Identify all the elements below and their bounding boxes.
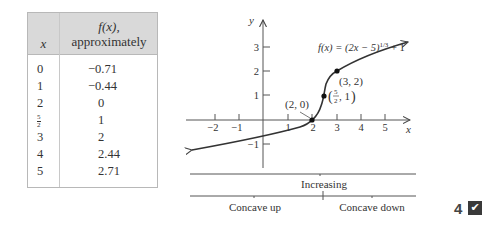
svg-text:1: 1 [254,90,259,101]
svg-text:3: 3 [334,122,339,133]
increasing-label: Increasing [301,178,347,190]
checkbox-icon[interactable]: ✔ [468,201,482,215]
svg-text:4: 4 [358,122,364,133]
svg-text:3: 3 [254,42,259,53]
function-graph: y x −2 −1 1 2 3 4 5 3 2 1 −1 (2, 0) (3, … [0,0,497,226]
svg-text:−1: −1 [248,139,259,150]
label-point-5half-1: ( 5 2 , 1 ) [328,88,356,105]
leader-line [300,112,310,118]
svg-text:2: 2 [310,122,315,133]
concave-down-label: Concave down [339,201,405,213]
point-3-2 [334,68,339,73]
svg-text:−2: −2 [207,122,218,133]
point-5half-1 [321,93,326,98]
svg-text:2: 2 [334,97,338,105]
concave-up-label: Concave up [229,201,282,213]
svg-text:2: 2 [254,66,259,77]
point-2-0 [309,117,314,122]
label-point-3-2: (3, 2) [339,75,363,88]
x-axis-label: x [405,123,411,135]
label-point-2-0: (2, 0) [285,98,309,111]
svg-text:, 1: , 1 [339,90,350,102]
x-ticks [215,114,385,120]
y-tick-labels: 3 2 1 −1 [248,42,259,150]
svg-text:): ) [351,89,356,105]
function-label: f(x) = (2x − 5)1/3 + 1 [318,41,405,54]
y-ticks [263,47,270,144]
y-axis-label: y [248,14,254,26]
svg-text:5: 5 [382,122,387,133]
svg-text:(: ( [328,89,333,105]
function-curve [192,42,408,150]
exercise-number: 4 [454,200,462,217]
svg-text:−1: −1 [231,122,242,133]
svg-text:5: 5 [334,88,338,96]
